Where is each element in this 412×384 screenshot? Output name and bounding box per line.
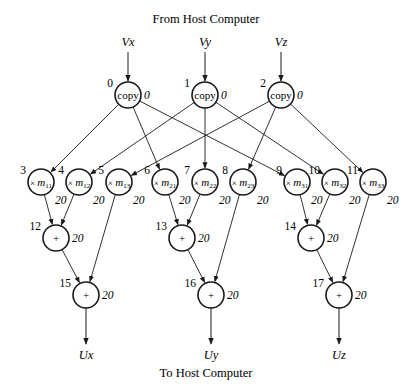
node-id: 11	[347, 164, 358, 176]
node-op: +	[308, 232, 314, 244]
edge-3-12	[44, 195, 52, 225]
edge-2-5	[131, 101, 269, 175]
output-labels: UxUyUz	[79, 308, 346, 362]
edge-0-6	[133, 107, 159, 169]
node-weight: 20	[227, 289, 239, 301]
node-op: +	[179, 232, 185, 244]
input-label: Vz	[275, 35, 288, 49]
output-label: Uz	[332, 348, 346, 362]
node-id: 6	[144, 164, 150, 176]
input-labels: VxVyVz	[121, 35, 287, 81]
node-1: 1copy0	[184, 77, 227, 108]
node-id: 12	[30, 220, 42, 232]
node-weight: 20	[179, 194, 191, 206]
node-id: 1	[184, 77, 190, 89]
node-id: 15	[60, 277, 72, 289]
edge-1-10	[216, 102, 324, 174]
dataflow-diagram: From Host Computer VxVyVz 0copy01copy02c…	[0, 0, 412, 384]
node-weight: 20	[198, 232, 210, 244]
node-op: +	[336, 289, 342, 301]
node-17: 17+20	[313, 277, 367, 308]
edge-9-14	[300, 195, 307, 225]
node-id: 9	[276, 164, 282, 176]
node-13: 13+20	[156, 220, 210, 251]
node-op: copy	[117, 89, 139, 101]
node-weight: 20	[311, 194, 323, 206]
node-weight: 20	[327, 232, 339, 244]
node-2: 2copy0	[260, 77, 303, 108]
node-id: 3	[20, 164, 26, 176]
node-op: +	[83, 289, 89, 301]
node-id: 10	[309, 164, 321, 176]
edge-2-8	[249, 107, 276, 169]
edge-0-9	[140, 101, 285, 176]
output-label: Uy	[204, 348, 219, 362]
footer-title: To Host Computer	[160, 366, 254, 380]
edge-1-4	[91, 102, 195, 174]
node-weight: 20	[93, 194, 105, 206]
node-weight: 20	[72, 232, 84, 244]
input-label: Vy	[199, 35, 211, 49]
node-op: copy	[194, 89, 216, 101]
edge-8-16	[215, 195, 240, 282]
nodes: 0copy01copy02copy03× m11204× m12205× m13…	[20, 77, 399, 308]
node-id: 17	[313, 277, 325, 289]
node-weight: 20	[355, 289, 367, 301]
edge-5-15	[90, 194, 115, 281]
node-weight: 20	[55, 194, 67, 206]
node-weight: 0	[297, 89, 303, 101]
node-id: 5	[98, 164, 104, 176]
node-weight: 20	[102, 289, 114, 301]
node-weight: 20	[219, 194, 231, 206]
node-id: 8	[222, 164, 228, 176]
node-14: 14+20	[285, 220, 339, 251]
node-weight: 0	[221, 89, 227, 101]
output-label: Ux	[79, 348, 94, 362]
node-op: +	[53, 232, 59, 244]
node-id: 0	[107, 77, 113, 89]
node-16: 16+20	[185, 277, 239, 308]
header-title: From Host Computer	[153, 12, 261, 26]
edge-11-17	[343, 194, 369, 281]
edge-6-13	[169, 194, 178, 224]
node-id: 2	[260, 77, 266, 89]
node-id: 13	[156, 220, 168, 232]
node-5: 5× m1320	[98, 164, 145, 206]
node-12: 12+20	[30, 220, 84, 251]
node-id: 16	[185, 277, 197, 289]
node-id: 7	[184, 164, 190, 176]
input-label: Vx	[121, 35, 135, 49]
node-id: 14	[285, 220, 297, 232]
node-weight: 20	[349, 194, 361, 206]
node-weight: 20	[257, 194, 269, 206]
node-op: copy	[270, 89, 292, 101]
node-weight: 20	[387, 194, 399, 206]
node-op: +	[208, 289, 214, 301]
edge-2-11	[290, 104, 362, 172]
node-15: 15+20	[60, 277, 114, 308]
node-id: 4	[58, 164, 64, 176]
node-weight: 0	[144, 89, 150, 101]
node-weight: 20	[133, 194, 145, 206]
